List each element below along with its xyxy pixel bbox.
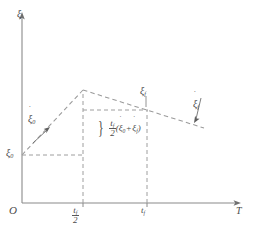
diagram-canvas <box>0 0 254 236</box>
xi-zero-subscript: 0 <box>10 152 13 159</box>
area-plus-sign: + <box>125 123 132 133</box>
xi0dot-slope-arrow <box>33 127 50 143</box>
guide-line-group <box>22 91 148 203</box>
tf-half-fraction: tf 2 <box>72 206 79 226</box>
area-annotation: } tf 2 (˙ξ0+˙ξf) <box>98 119 141 139</box>
xi-zero-label: ξ0 <box>6 148 13 158</box>
xi0dot-arrow-shaft <box>33 130 47 143</box>
area-xi-zero-dot-subscript: 0 <box>122 128 125 134</box>
area-paren-close: ) <box>138 123 141 133</box>
xi-f-label: ξf <box>140 86 146 96</box>
tf-half-denominator: 2 <box>72 216 79 225</box>
y-axis-label: ξ <box>17 9 21 19</box>
area-xi-f-dot-subscript: f <box>136 128 138 134</box>
tf-subscript: f <box>144 210 146 216</box>
axis-group <box>19 12 241 206</box>
xi-f-dot-subscript: f <box>197 103 199 110</box>
xi-f-subscript: f <box>144 90 146 97</box>
tick-label-tf-half: tf 2 <box>72 206 79 226</box>
brace-icon: } <box>98 121 104 136</box>
xi-f-dot-label: ˙ξf <box>193 99 199 109</box>
origin-label: O <box>9 205 17 216</box>
tick-label-tf: tf <box>141 206 145 215</box>
xi-zero-dot-subscript: 0 <box>32 118 35 125</box>
xi-zero-dot-label: ˙ξ0 <box>28 114 35 124</box>
x-axis-label: T <box>236 206 242 216</box>
tick-group <box>83 203 147 207</box>
figure-container: ξ T O ξ0 ˙ξ0 ξf ˙ξf } tf 2 (˙ξ0+˙ξf) tf … <box>0 0 254 236</box>
